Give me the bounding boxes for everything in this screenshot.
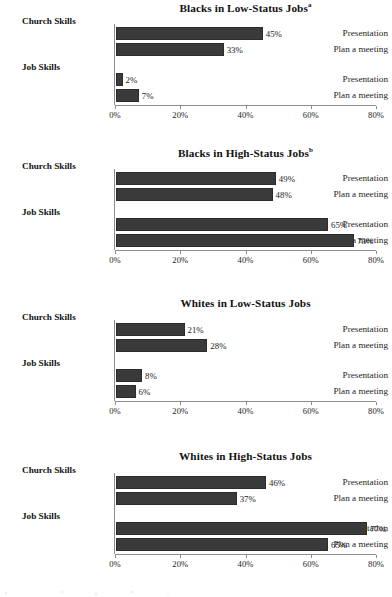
x-axis-tick bbox=[376, 555, 377, 558]
bar bbox=[116, 522, 367, 535]
x-axis-tick-label: 40% bbox=[226, 110, 266, 120]
group-label: Job Skills bbox=[22, 207, 60, 217]
x-axis-tick-label: 0% bbox=[95, 406, 135, 416]
bar-value-label: 65% bbox=[331, 540, 347, 550]
chart-1: Blacks in Low-Status JobsaChurch SkillsP… bbox=[0, 0, 392, 145]
bar bbox=[116, 385, 136, 398]
x-axis-tick bbox=[180, 402, 181, 405]
group-label: Church Skills bbox=[22, 16, 76, 26]
group-label: Job Skills bbox=[22, 62, 60, 72]
category-label: Presentation bbox=[343, 173, 388, 183]
bar bbox=[116, 234, 354, 247]
x-axis-tick-label: 0% bbox=[95, 559, 135, 569]
x-axis-tick-label: 20% bbox=[160, 110, 200, 120]
category-label: Presentation bbox=[343, 219, 388, 229]
x-axis-tick bbox=[246, 402, 247, 405]
category-label: Presentation bbox=[343, 74, 388, 84]
x-axis-tick bbox=[115, 251, 116, 254]
bar-value-label: 73% bbox=[357, 236, 373, 246]
chart-title-text: Blacks in High-Status Jobs bbox=[178, 147, 309, 159]
x-axis-tick bbox=[311, 402, 312, 405]
x-axis-tick bbox=[115, 555, 116, 558]
group-label: Job Skills bbox=[22, 358, 60, 368]
x-axis-tick bbox=[246, 555, 247, 558]
x-axis-tick bbox=[311, 251, 312, 254]
bar bbox=[116, 188, 273, 201]
chart-title-text: Blacks in Low-Status Jobs bbox=[179, 2, 307, 14]
bar bbox=[116, 492, 237, 505]
bar-value-label: 77% bbox=[370, 524, 386, 534]
bar bbox=[116, 73, 123, 86]
bar bbox=[116, 369, 142, 382]
bar-value-label: 45% bbox=[266, 29, 282, 39]
bar bbox=[116, 476, 266, 489]
x-axis-tick-label: 0% bbox=[95, 255, 135, 265]
x-axis-tick-label: 80% bbox=[356, 255, 392, 265]
bar bbox=[116, 89, 139, 102]
x-axis-tick bbox=[376, 106, 377, 109]
bar-value-label: 37% bbox=[240, 494, 256, 504]
x-axis-tick-label: 40% bbox=[226, 406, 266, 416]
chart-title-text: Whites in Low-Status Jobs bbox=[180, 297, 310, 309]
chart-title: Blacks in High-Status Jobsb bbox=[115, 147, 376, 159]
bar-value-label: 28% bbox=[210, 341, 226, 351]
x-axis-tick bbox=[180, 555, 181, 558]
y-axis-line bbox=[114, 320, 115, 401]
x-axis-tick bbox=[115, 402, 116, 405]
bar-value-label: 46% bbox=[269, 478, 285, 488]
bar-value-label: 49% bbox=[279, 174, 295, 184]
chart-title-footnote-marker: b bbox=[309, 146, 313, 154]
category-label: Presentation bbox=[343, 28, 388, 38]
scan-edge-artifact bbox=[0, 588, 392, 597]
category-label: Plan a meeting bbox=[333, 340, 388, 350]
x-axis-tick bbox=[180, 106, 181, 109]
bar-value-label: 33% bbox=[227, 45, 243, 55]
bar-value-label: 6% bbox=[139, 387, 151, 397]
group-label: Church Skills bbox=[22, 312, 76, 322]
group-label: Job Skills bbox=[22, 511, 60, 521]
category-label: Plan a meeting bbox=[333, 44, 388, 54]
y-axis-line bbox=[114, 24, 115, 105]
y-axis-line bbox=[114, 169, 115, 250]
bar-value-label: 65% bbox=[331, 220, 347, 230]
bar bbox=[116, 27, 263, 40]
x-axis-tick-label: 40% bbox=[226, 559, 266, 569]
x-axis-tick bbox=[311, 106, 312, 109]
x-axis-tick-label: 60% bbox=[291, 559, 331, 569]
bar-value-label: 2% bbox=[126, 75, 138, 85]
bar bbox=[116, 538, 328, 551]
category-label: Plan a meeting bbox=[333, 189, 388, 199]
x-axis-tick bbox=[376, 402, 377, 405]
chart-3: Whites in Low-Status JobsChurch SkillsPr… bbox=[0, 296, 392, 441]
x-axis-tick-label: 80% bbox=[356, 406, 392, 416]
chart-title: Whites in Low-Status Jobs bbox=[115, 297, 376, 309]
category-label: Presentation bbox=[343, 370, 388, 380]
chart-title: Blacks in Low-Status Jobsa bbox=[115, 2, 376, 14]
x-axis-tick bbox=[376, 251, 377, 254]
x-axis-tick bbox=[311, 555, 312, 558]
chart-title-footnote-marker: a bbox=[308, 1, 312, 9]
x-axis-tick bbox=[246, 106, 247, 109]
y-axis-line bbox=[114, 473, 115, 554]
category-label: Plan a meeting bbox=[333, 90, 388, 100]
bar-value-label: 21% bbox=[188, 325, 204, 335]
x-axis-tick-label: 60% bbox=[291, 110, 331, 120]
x-axis-tick-label: 0% bbox=[95, 110, 135, 120]
x-axis-tick-label: 60% bbox=[291, 255, 331, 265]
bar bbox=[116, 172, 276, 185]
bar-value-label: 48% bbox=[276, 190, 292, 200]
chart-title-text: Whites in High-Status Jobs bbox=[179, 450, 312, 462]
group-label: Church Skills bbox=[22, 161, 76, 171]
x-axis-tick-label: 60% bbox=[291, 406, 331, 416]
x-axis-tick-label: 20% bbox=[160, 559, 200, 569]
category-label: Presentation bbox=[343, 477, 388, 487]
x-axis-tick bbox=[115, 106, 116, 109]
bar bbox=[116, 339, 207, 352]
chart-4: Whites in High-Status JobsChurch SkillsP… bbox=[0, 449, 392, 594]
bar-value-label: 8% bbox=[145, 371, 157, 381]
category-label: Plan a meeting bbox=[333, 493, 388, 503]
chart-2: Blacks in High-Status JobsbChurch Skills… bbox=[0, 145, 392, 290]
bar-value-label: 7% bbox=[142, 91, 154, 101]
bar bbox=[116, 43, 224, 56]
x-axis-tick-label: 20% bbox=[160, 255, 200, 265]
